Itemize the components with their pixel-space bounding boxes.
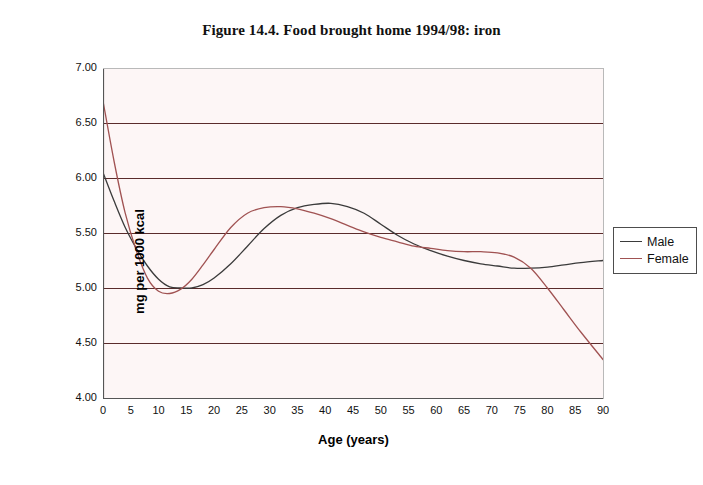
- x-tick-label: 10: [144, 404, 174, 416]
- x-tick-label: 80: [532, 404, 562, 416]
- chart-title: Figure 14.4. Food brought home 1994/98: …: [0, 22, 703, 39]
- x-tick-label: 85: [560, 404, 590, 416]
- legend-item-male[interactable]: Male: [620, 233, 689, 250]
- x-tick-label: 55: [394, 404, 424, 416]
- x-tick-label: 45: [338, 404, 368, 416]
- y-tick-label: 5.00: [53, 281, 97, 293]
- x-axis-title: Age (years): [103, 432, 604, 447]
- y-tick-label: 4.50: [53, 336, 97, 348]
- legend-swatch-female: [620, 258, 642, 259]
- x-tick-label: 50: [366, 404, 396, 416]
- figure-container: Figure 14.4. Food brought home 1994/98: …: [0, 0, 703, 485]
- x-tick-label: 70: [477, 404, 507, 416]
- x-tick-label: 90: [588, 404, 618, 416]
- x-tick-label: 0: [88, 404, 118, 416]
- y-tick-label: 5.50: [53, 226, 97, 238]
- y-tick-label: 6.50: [53, 116, 97, 128]
- legend-label: Male: [647, 235, 674, 249]
- x-tick-label: 35: [282, 404, 312, 416]
- legend-item-female[interactable]: Female: [620, 250, 689, 267]
- chart-canvas: [103, 68, 604, 399]
- x-tick-label: 40: [310, 404, 340, 416]
- y-tick-label: 6.00: [53, 171, 97, 183]
- x-tick-label: 60: [421, 404, 451, 416]
- legend-label: Female: [647, 252, 689, 266]
- chart-legend: MaleFemale: [613, 227, 697, 274]
- x-tick-label: 20: [199, 404, 229, 416]
- x-tick-label: 25: [227, 404, 257, 416]
- y-tick-label: 4.00: [53, 391, 97, 403]
- x-tick-label: 75: [505, 404, 535, 416]
- x-tick-label: 15: [171, 404, 201, 416]
- plot-area: mg per 1000 kcal: [103, 68, 604, 399]
- legend-swatch-male: [620, 241, 642, 242]
- x-axis-tick-labels: 051015202530354045505560657075808590: [103, 404, 604, 422]
- y-axis-title: mg per 1000 kcal: [132, 182, 147, 342]
- x-tick-label: 5: [116, 404, 146, 416]
- x-tick-label: 65: [449, 404, 479, 416]
- y-axis-tick-labels: 4.004.505.005.506.006.507.00: [51, 68, 97, 399]
- x-tick-label: 30: [255, 404, 285, 416]
- y-tick-label: 7.00: [53, 61, 97, 73]
